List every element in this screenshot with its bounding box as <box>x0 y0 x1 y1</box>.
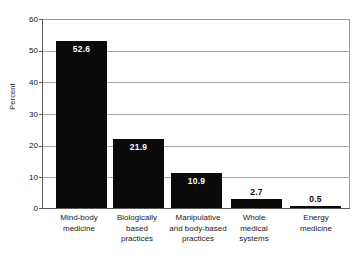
plot-top-border <box>43 19 350 20</box>
y-tick-mark-60 <box>39 19 43 20</box>
plot-area: 52.6 21.9 10.9 2.7 0.5 <box>42 19 350 209</box>
x-label-line: systems <box>218 234 290 245</box>
x-label-line: medicine <box>277 224 355 235</box>
y-tick-mark-0 <box>39 208 43 209</box>
y-tick-label-50: 50 <box>12 47 38 55</box>
y-tick-label-60: 60 <box>12 16 38 24</box>
x-label-energy-medicine: Energy medicine <box>277 213 355 234</box>
y-tick-label-0: 0 <box>12 205 38 213</box>
y-tick-label-20: 20 <box>12 142 38 150</box>
bar-value-label: 2.7 <box>231 187 282 197</box>
bar-value-label: 10.9 <box>171 176 222 186</box>
bar-value-label: 52.6 <box>56 44 107 54</box>
bar-mind-body-medicine[interactable]: 52.6 <box>56 41 107 208</box>
bar-manipulative-and-body-based-practices[interactable]: 10.9 <box>171 173 222 208</box>
y-tick-mark-50 <box>39 51 43 52</box>
bar-chart: Percent 52.6 21.9 10.9 2.7 0. <box>0 0 363 259</box>
bar-value-label: 0.5 <box>290 194 341 204</box>
y-tick-label-10: 10 <box>12 174 38 182</box>
bar-biologically-based-practices[interactable]: 21.9 <box>113 139 164 208</box>
y-tick-mark-20 <box>39 146 43 147</box>
y-tick-label-30: 30 <box>12 111 38 119</box>
y-tick-mark-10 <box>39 177 43 178</box>
bar-value-label: 21.9 <box>113 142 164 152</box>
y-tick-label-40: 40 <box>12 79 38 87</box>
x-label-line: Energy <box>277 213 355 224</box>
y-tick-mark-40 <box>39 82 43 83</box>
bar-energy-medicine[interactable]: 0.5 <box>290 206 341 208</box>
y-tick-mark-30 <box>39 114 43 115</box>
bar-whole-medical-systems[interactable]: 2.7 <box>231 199 282 208</box>
